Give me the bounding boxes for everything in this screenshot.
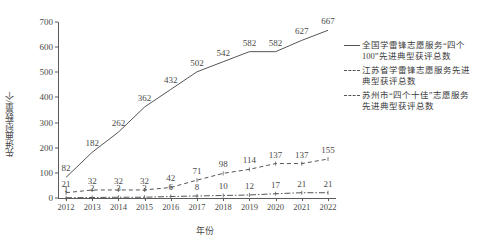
plot-area: 0100200300400500600700 20122013201420152… (58, 22, 336, 198)
chart-figure: 先进典型数量/个 年份 0100200300400500600700 20122… (0, 0, 479, 248)
x-tick-label: 2022 (320, 202, 337, 212)
x-tick-mark (197, 198, 198, 201)
y-axis-label: 先进典型数量/个 (2, 91, 15, 157)
series-lines (58, 22, 336, 198)
y-tick-mark (55, 47, 58, 48)
y-tick-mark (55, 172, 58, 173)
x-tick-mark (118, 198, 119, 201)
legend-item-suzhou[interactable]: 苏州市“四个十佳”志愿服务先进典型获评总数 (344, 90, 477, 112)
x-tick-label: 2016 (162, 202, 179, 212)
x-tick-label: 2018 (215, 202, 232, 212)
x-tick-mark (171, 198, 172, 201)
legend-label: 江苏省学雷锋志愿服务先进典型获评总数 (362, 65, 477, 87)
y-tick-mark (55, 147, 58, 148)
legend-label: 苏州市“四个十佳”志愿服务先进典型获评总数 (362, 90, 477, 112)
x-tick-mark (66, 198, 67, 201)
x-tick-label: 2014 (110, 202, 127, 212)
y-tick-mark (55, 22, 58, 23)
x-axis-label: 年份 (196, 224, 214, 237)
x-tick-label: 2017 (189, 202, 206, 212)
x-tick-mark (302, 198, 303, 201)
legend-key-dashed-icon (344, 65, 360, 76)
x-tick-mark (249, 198, 250, 201)
x-tick-label: 2019 (241, 202, 258, 212)
x-tick-label: 2015 (136, 202, 153, 212)
x-tick-mark (276, 198, 277, 201)
y-tick-mark (55, 122, 58, 123)
legend-key-solid-icon (344, 40, 360, 51)
series-line-1 (66, 159, 328, 193)
chart-legend: 全国学雷锋志愿服务“四个100”先进典型获评总数 江苏省学雷锋志愿服务先进典型获… (344, 40, 477, 115)
legend-item-national[interactable]: 全国学雷锋志愿服务“四个100”先进典型获评总数 (344, 40, 477, 62)
y-tick-mark (55, 198, 58, 199)
x-tick-mark (223, 198, 224, 201)
x-tick-mark (145, 198, 146, 201)
x-tick-label: 2013 (84, 202, 101, 212)
y-tick-mark (55, 97, 58, 98)
x-tick-mark (92, 198, 93, 201)
legend-label: 全国学雷锋志愿服务“四个100”先进典型获评总数 (362, 40, 477, 62)
x-tick-label: 2020 (267, 202, 284, 212)
x-tick-label: 2021 (293, 202, 310, 212)
x-tick-mark (328, 198, 329, 201)
series-line-0 (66, 30, 328, 177)
legend-item-jiangsu[interactable]: 江苏省学雷锋志愿服务先进典型获评总数 (344, 65, 477, 87)
x-tick-label: 2012 (58, 202, 75, 212)
legend-key-dashdot-icon (344, 90, 360, 101)
y-tick-mark (55, 72, 58, 73)
